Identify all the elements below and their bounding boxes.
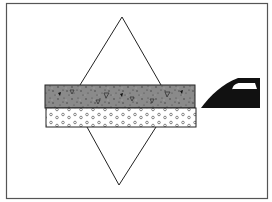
surface-layer: [45, 85, 195, 108]
base-layer: [46, 108, 196, 127]
road-diagram: [0, 0, 272, 202]
vehicle-window: [232, 83, 257, 90]
